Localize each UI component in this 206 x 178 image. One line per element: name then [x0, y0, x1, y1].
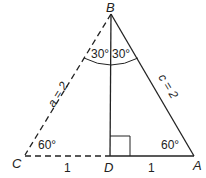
side-label-cd: 1: [64, 161, 71, 175]
side-c-solid: [111, 14, 194, 156]
vertex-label-c: C: [12, 156, 22, 171]
side-a-dashed: [25, 14, 111, 155]
angle-label-b-left: 30°: [91, 47, 109, 61]
side-label-da: 1: [148, 161, 155, 175]
triangle-diagram: B C D A 30° 30° 60° 60° a = 2 c = 2 1 1: [0, 0, 206, 178]
vertex-label-a: A: [192, 158, 202, 173]
angle-label-a: 60°: [161, 138, 179, 152]
angle-label-b-right: 30°: [112, 47, 130, 61]
vertex-label-b: B: [106, 0, 115, 15]
vertex-label-d: D: [104, 160, 113, 175]
right-angle-marker: [110, 136, 130, 156]
side-label-a: a = 2: [45, 79, 71, 110]
altitude-bd: [110, 14, 111, 156]
angle-label-c: 60°: [38, 138, 56, 152]
